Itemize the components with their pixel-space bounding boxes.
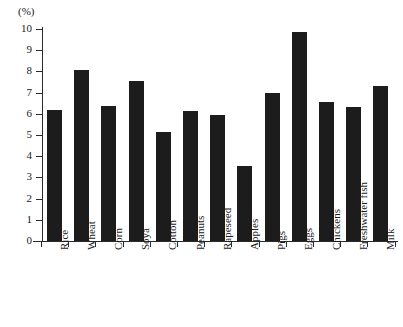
y-tick-mark: [36, 156, 42, 157]
bar: [129, 81, 144, 241]
y-tick-label: 2: [0, 193, 32, 204]
x-category-label: Corn: [113, 228, 124, 250]
y-tick-mark: [36, 177, 42, 178]
x-category-label: Chickens: [331, 209, 342, 250]
bar: [265, 93, 280, 241]
x-category-label: Wheat: [86, 221, 97, 250]
y-tick-mark: [36, 71, 42, 72]
x-category-label: Rapeseed: [222, 208, 233, 250]
y-tick-mark: [36, 29, 42, 30]
y-tick-label: 9: [0, 44, 32, 55]
x-category-label: Soya: [140, 228, 151, 250]
y-tick-label: 5: [0, 129, 32, 140]
y-tick-label: 7: [0, 87, 32, 98]
y-tick-mark: [36, 50, 42, 51]
y-tick-mark: [36, 135, 42, 136]
y-tick-label: 10: [0, 23, 32, 34]
bar: [101, 106, 116, 241]
bar: [292, 32, 307, 241]
bar: [373, 86, 388, 241]
y-tick-mark: [36, 199, 42, 200]
y-tick-mark: [36, 93, 42, 94]
y-tick-label: 4: [0, 150, 32, 161]
x-category-label: Rice: [59, 230, 70, 250]
y-tick-label: 8: [0, 65, 32, 76]
x-category-label: Milk: [385, 229, 396, 250]
y-tick-label: 6: [0, 108, 32, 119]
bar-chart: (%) 109876543210 RiceWheatCornSoyaCotton…: [0, 0, 403, 327]
y-axis-unit-label: (%): [18, 5, 35, 17]
bar: [47, 110, 62, 241]
x-category-label: Apples: [249, 219, 260, 250]
y-tick-label: 1: [0, 214, 32, 225]
x-category-label: Freshwater fish: [358, 182, 369, 250]
bar: [74, 70, 89, 241]
y-tick-label: 3: [0, 171, 32, 182]
x-category-label: Cotton: [167, 220, 178, 250]
x-category-label: Pigs: [276, 231, 287, 250]
y-tick-mark: [36, 114, 42, 115]
y-tick-label: 0: [0, 235, 32, 246]
x-category-label: Eggs: [303, 228, 314, 250]
y-tick-mark: [36, 220, 42, 221]
x-tick-mark: [41, 242, 42, 247]
x-category-label: Peanuts: [195, 216, 206, 250]
